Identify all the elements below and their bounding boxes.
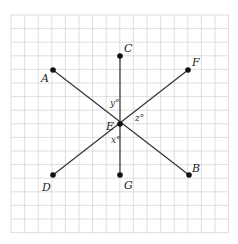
point-G	[117, 172, 123, 178]
point-E	[117, 121, 123, 127]
angle-label: y°	[109, 98, 120, 108]
point-label: A	[40, 72, 49, 85]
point-D	[50, 172, 56, 178]
point-B	[186, 172, 192, 178]
angle-label: z°	[134, 113, 144, 123]
point-label: E	[105, 120, 114, 133]
geometry-diagram: ACFEDGB y°z°x°	[0, 0, 238, 244]
angle-label: x°	[111, 135, 121, 145]
point-label: G	[124, 179, 133, 192]
line-segments	[53, 56, 189, 175]
point-F	[185, 67, 191, 73]
point-label: F	[191, 56, 200, 69]
point-label: D	[41, 181, 51, 194]
point-label: B	[191, 162, 200, 175]
point-A	[50, 67, 56, 73]
point-label: C	[124, 42, 133, 55]
point-C	[117, 53, 123, 59]
angle-labels: y°z°x°	[109, 98, 144, 145]
